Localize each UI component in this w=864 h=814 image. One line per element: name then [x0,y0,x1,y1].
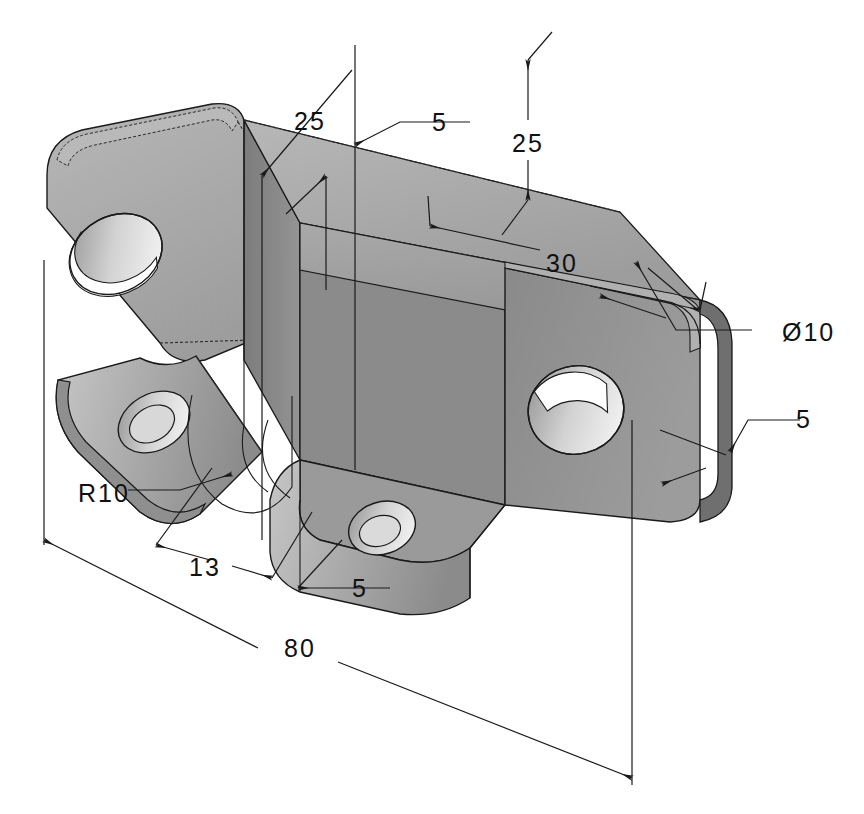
dim-label-5-bottom: 5 [352,574,368,602]
dim-label-diameter-10: Ø10 [782,318,835,346]
leader-5-top [355,122,470,145]
dim-label-30: 30 [546,249,578,277]
bracket-solid-body [47,104,732,615]
dim-label-r10: R10 [78,479,130,507]
dim-80-right-seg [338,662,632,778]
dim-label-5-right: 5 [796,405,812,433]
dim-label-13: 13 [189,553,221,581]
leader-5-right [730,420,800,452]
dim-13-right-seg [232,566,272,578]
dim-label-25-right: 25 [512,129,544,157]
dim-label-5-top: 5 [432,108,448,136]
ext-25-right-top [528,32,552,60]
dim-label-25-left: 25 [294,107,326,135]
isometric-bracket-drawing: 25 5 25 30 Ø10 5 R10 13 5 80 [0,0,864,814]
drawing-canvas: 25 5 25 30 Ø10 5 R10 13 5 80 [0,0,864,814]
dim-label-80: 80 [284,634,316,662]
dim-80-left-seg [44,540,258,648]
